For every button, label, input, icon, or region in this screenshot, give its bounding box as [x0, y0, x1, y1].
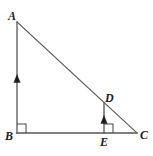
vertex-label-a: A — [8, 10, 16, 22]
right-angle-marker-B — [17, 124, 26, 133]
segment-AC — [17, 22, 137, 133]
geometry-figure: A B C D E — [0, 0, 153, 156]
right-angle-marker-E — [104, 124, 113, 133]
vertex-label-b: B — [5, 130, 13, 142]
vertex-label-e: E — [100, 136, 108, 148]
vertex-label-d: D — [105, 92, 114, 104]
tick-mark-de — [101, 116, 107, 124]
tick-mark-ab — [14, 75, 20, 83]
vertex-label-c: C — [140, 129, 148, 141]
geometry-canvas — [0, 0, 153, 156]
